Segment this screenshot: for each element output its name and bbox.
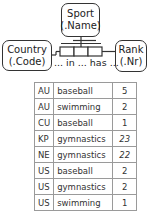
sport-cell: gymnastics [54, 147, 113, 163]
entity-rank[interactable]: Rank (.Nr) [115, 40, 147, 72]
sport-cell: gymnastics [54, 179, 113, 195]
entity-rank-ref: (.Nr) [120, 56, 143, 68]
rank-cell: 1 [113, 115, 137, 131]
table-row: USbaseball2 [35, 163, 137, 179]
rank-cell: 23 [113, 131, 137, 147]
country-cell: US [35, 179, 54, 195]
entity-sport[interactable]: Sport (.Name) [61, 3, 100, 37]
country-cell: NE [35, 147, 54, 163]
role-box-1 [60, 47, 74, 56]
table-row: USgymnastics2 [35, 179, 137, 195]
table-row: CUbaseball1 [35, 115, 137, 131]
sport-cell: baseball [54, 83, 113, 99]
entity-country-ref: (.Code) [9, 56, 46, 68]
rank-cell: 2 [113, 179, 137, 195]
fact-type-reading: ... in ... has ... [54, 57, 119, 68]
table-row: AUswimming2 [35, 99, 137, 115]
rank-cell: 22 [113, 147, 137, 163]
entity-sport-name: Sport [67, 8, 94, 20]
sport-cell: swimming [54, 195, 113, 211]
table-row: NEgymnastics22 [35, 147, 137, 163]
country-cell: CU [35, 115, 54, 131]
entity-sport-ref: (.Name) [60, 20, 100, 32]
sport-cell: swimming [54, 99, 113, 115]
country-cell: US [35, 195, 54, 211]
rank-cell: 2 [113, 99, 137, 115]
table-row: KPgymnastics23 [35, 131, 137, 147]
role-box-3 [88, 47, 102, 56]
country-cell: KP [35, 131, 54, 147]
entity-country[interactable]: Country (.Code) [2, 40, 52, 71]
sport-cell: baseball [54, 163, 113, 179]
country-cell: AU [35, 99, 54, 115]
rank-cell: 2 [113, 163, 137, 179]
entity-country-name: Country [7, 44, 47, 56]
table-row: USswimming1 [35, 195, 137, 211]
rank-cell: 1 [113, 195, 137, 211]
population-table: AUbaseball5AUswimming2CUbaseball1KPgymna… [34, 82, 137, 211]
country-cell: US [35, 163, 54, 179]
sport-cell: baseball [54, 115, 113, 131]
table-row: AUbaseball5 [35, 83, 137, 99]
rank-cell: 5 [113, 83, 137, 99]
country-cell: AU [35, 83, 54, 99]
role-box-2 [74, 47, 88, 56]
entity-rank-name: Rank [119, 44, 144, 56]
sport-cell: gymnastics [54, 131, 113, 147]
